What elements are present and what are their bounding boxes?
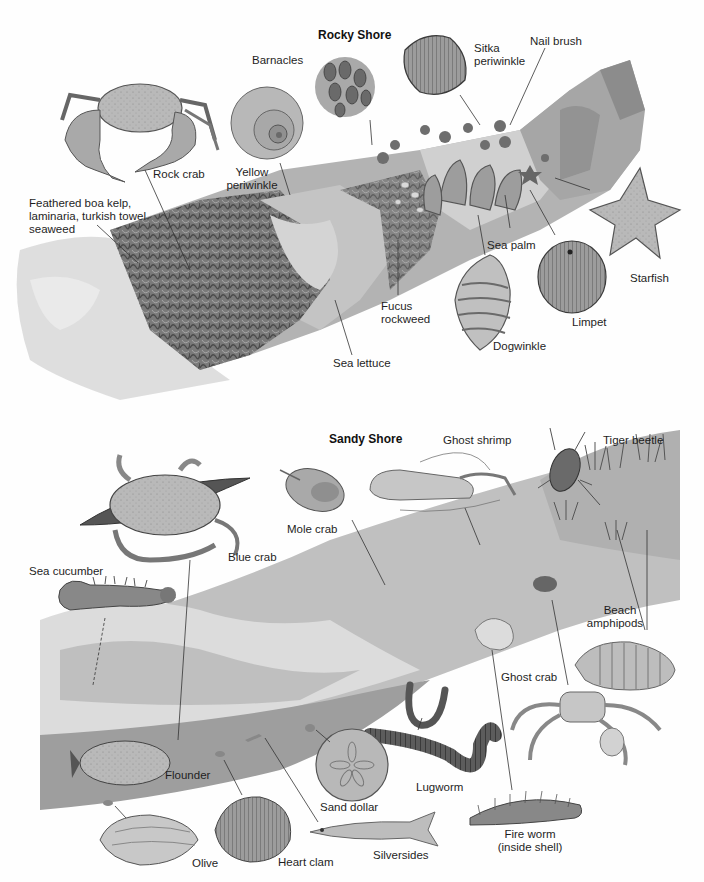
label-yellow-periwinkle-line2: periwinkle (222, 179, 282, 192)
mole-crab-figure (280, 461, 350, 519)
limpet-figure (538, 241, 606, 313)
label-ghost-crab: Ghost crab (501, 671, 557, 684)
olive-shell-figure (100, 815, 198, 865)
label-starfish: Starfish (630, 272, 669, 285)
rocky-shore-title: Rocky Shore (318, 28, 391, 42)
ghost-crab-figure (512, 692, 660, 765)
shore-ecosystem-illustration: Rocky Shore Barnacles Sitka periwinkle N… (0, 0, 704, 882)
label-beach-amphipods-line1: Beach (590, 604, 650, 617)
label-tiger-beetle: Tiger beetle (603, 434, 663, 447)
label-heart-clam: Heart clam (278, 856, 334, 869)
beach-amphipod-figure (575, 642, 675, 690)
label-fucus-line2: rockweed (381, 313, 430, 326)
sandy-shore-title: Sandy Shore (329, 432, 402, 446)
sand-dollar-figure (316, 729, 388, 801)
label-dogwinkle: Dogwinkle (493, 340, 546, 353)
label-fire-worm-line1: Fire worm (490, 828, 570, 841)
label-beach-amphipods-line2: amphipods (580, 617, 650, 630)
fire-worm-figure (470, 791, 582, 825)
label-olive: Olive (192, 857, 218, 870)
barnacles-figure (315, 57, 375, 117)
label-kelp-line1: Feathered boa kelp, (29, 197, 131, 210)
label-nail-brush: Nail brush (530, 35, 582, 48)
label-ghost-shrimp: Ghost shrimp (443, 434, 511, 447)
label-fire-worm-line2: (inside shell) (490, 841, 570, 854)
label-yellow-periwinkle-line1: Yellow (222, 166, 282, 179)
ghost-crab-small-figure (533, 576, 557, 592)
label-sea-cucumber: Sea cucumber (29, 565, 103, 578)
label-limpet: Limpet (572, 316, 607, 329)
label-sea-palm: Sea palm (487, 239, 536, 252)
label-mole-crab: Mole crab (287, 523, 338, 536)
label-sitka-periwinkle-line2: periwinkle (474, 55, 525, 68)
label-silversides: Silversides (373, 849, 429, 862)
sitka-periwinkle-figure (404, 36, 466, 95)
label-sand-dollar: Sand dollar (320, 801, 378, 814)
label-sitka-periwinkle-line1: Sitka (474, 42, 500, 55)
dogwinkle-figure (455, 255, 511, 350)
heart-clam-figure (215, 797, 291, 862)
label-rock-crab: Rock crab (153, 168, 205, 181)
yellow-periwinkle-figure (231, 87, 303, 159)
label-sea-lettuce: Sea lettuce (333, 357, 391, 370)
label-barnacles: Barnacles (252, 54, 303, 67)
label-kelp-line3: seaweed (29, 223, 75, 236)
silversides-figure (310, 812, 438, 846)
blue-crab-figure (80, 455, 250, 560)
label-kelp-line2: laminaria, turkish towel (29, 210, 146, 223)
label-blue-crab: Blue crab (228, 551, 277, 564)
label-fucus-line1: Fucus (381, 300, 412, 313)
label-lugworm: Lugworm (416, 781, 463, 794)
label-flounder: Flounder (165, 769, 210, 782)
